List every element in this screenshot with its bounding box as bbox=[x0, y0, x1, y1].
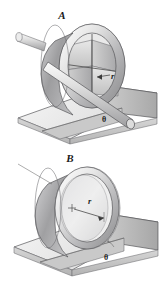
panel-label-b: B bbox=[65, 152, 73, 164]
physics-figure: r A θ bbox=[0, 0, 165, 300]
panel-b-ring-on-incline: r B θ bbox=[0, 150, 165, 300]
panel-label-a: A bbox=[57, 9, 65, 21]
angle-label-a: θ bbox=[102, 115, 106, 124]
panel-a-wheel-on-incline: r A θ bbox=[0, 0, 165, 150]
angle-label-b: θ bbox=[104, 253, 108, 262]
